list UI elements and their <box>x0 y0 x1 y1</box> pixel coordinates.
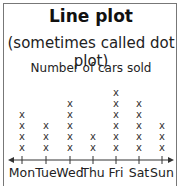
x-mark: x <box>19 131 25 142</box>
x-marks: xxxxxxxxxxxxxxxxxxxxxxxxxxxx <box>19 87 165 153</box>
x-mark: x <box>90 142 96 153</box>
x-mark: x <box>43 142 49 153</box>
day-label-thu: Thu <box>80 165 104 180</box>
x-mark: x <box>136 142 142 153</box>
x-mark: x <box>113 120 119 131</box>
x-mark: x <box>43 120 49 131</box>
x-mark: x <box>67 98 73 109</box>
x-mark: x <box>113 87 119 98</box>
x-mark: x <box>113 142 119 153</box>
x-mark: x <box>136 131 142 142</box>
x-mark: x <box>19 109 25 120</box>
day-label-sat: Sat <box>129 165 150 180</box>
x-mark: x <box>67 142 73 153</box>
x-mark: x <box>90 131 96 142</box>
day-labels: MonTueWedThuFriSatSun <box>9 165 174 180</box>
x-mark: x <box>113 98 119 109</box>
x-mark: x <box>19 142 25 153</box>
x-mark: x <box>113 109 119 120</box>
day-label-tue: Tue <box>34 165 57 180</box>
number-line-axis <box>8 157 174 163</box>
x-mark: x <box>19 120 25 131</box>
x-mark: x <box>43 131 49 142</box>
x-mark: x <box>159 120 165 131</box>
x-mark: x <box>159 142 165 153</box>
x-mark: x <box>67 120 73 131</box>
x-mark: x <box>136 109 142 120</box>
line-plot: xxxxxxxxxxxxxxxxxxxxxxxxxxxx MonTueWedTh… <box>0 0 182 186</box>
x-mark: x <box>67 131 73 142</box>
x-mark: x <box>67 109 73 120</box>
right-arrow-icon <box>168 157 174 163</box>
day-label-sun: Sun <box>150 165 174 180</box>
day-label-fri: Fri <box>109 165 124 180</box>
x-mark: x <box>159 131 165 142</box>
day-label-mon: Mon <box>9 165 35 180</box>
x-mark: x <box>113 131 119 142</box>
left-arrow-icon <box>8 157 14 163</box>
x-mark: x <box>136 120 142 131</box>
x-mark: x <box>136 98 142 109</box>
day-label-wed: Wed <box>56 165 83 180</box>
